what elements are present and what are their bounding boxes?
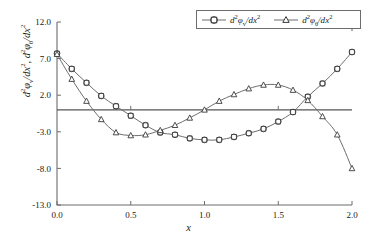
data-point-marker bbox=[69, 76, 75, 81]
tick-label: -13.0 bbox=[32, 200, 51, 210]
tick-label: 0.5 bbox=[125, 210, 137, 220]
data-point-marker bbox=[349, 165, 355, 170]
data-point-marker bbox=[113, 130, 119, 135]
chart-legend: d2φv/dx2 d2φθ/dx2 bbox=[196, 10, 361, 29]
data-point-marker bbox=[290, 87, 296, 92]
data-point-marker bbox=[187, 115, 193, 120]
legend-label-phi-theta: d2φθ/dx2 bbox=[302, 13, 332, 27]
tick-label: -8.0 bbox=[37, 164, 52, 174]
chart-figure: 12.07.02.0-3.0-8.0-13.00.00.51.01.52.0 d… bbox=[0, 0, 377, 246]
tick-label: 7.0 bbox=[40, 54, 52, 64]
legend-marker-triangle-icon bbox=[273, 14, 299, 26]
data-point-marker bbox=[216, 98, 222, 103]
tick-label: 1.5 bbox=[273, 210, 285, 220]
x-axis-label: x bbox=[0, 222, 377, 233]
y-axis-label: d2φv/dx2, d2φθ/dx2 bbox=[19, 0, 37, 141]
tick-label: 2.0 bbox=[40, 90, 52, 100]
tick-label: -3.0 bbox=[37, 127, 52, 137]
legend-label-phi-v: d2φv/dx2 bbox=[230, 13, 260, 27]
data-point-marker bbox=[334, 132, 340, 137]
chart-plot-area: 12.07.02.0-3.0-8.0-13.00.00.51.01.52.0 bbox=[0, 0, 377, 246]
tick-label: 2.0 bbox=[346, 210, 358, 220]
series-phi-v bbox=[54, 49, 355, 143]
tick-label: 0.0 bbox=[51, 210, 63, 220]
legend-marker-circle-icon bbox=[201, 14, 227, 26]
axis-spines bbox=[57, 22, 352, 205]
tick-label: 1.0 bbox=[199, 210, 211, 220]
series-phi-theta bbox=[54, 51, 355, 170]
tick-label: 12.0 bbox=[35, 17, 51, 27]
